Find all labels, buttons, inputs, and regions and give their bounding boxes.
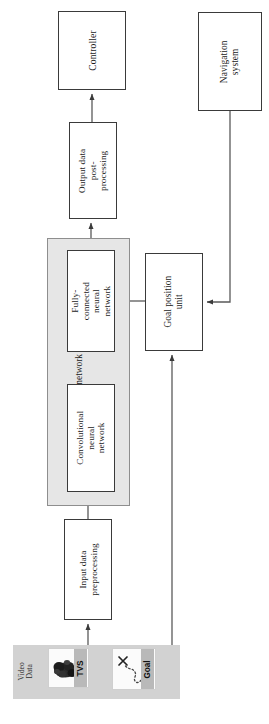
thumbnail-tvs-caption: TVS [76,660,85,676]
block-fully-connected-neural-network[interactable]: Fully-connected neural network [67,250,115,352]
thumbnail-goal-caption: Goal [143,660,152,678]
block-input-data-preprocessing-label: Input data preprocessing [77,543,98,595]
block-fully-connected-neural-network-label: Fully-connected neural network [70,278,112,324]
block-goal-position-unit[interactable]: Goal position unit [145,253,203,351]
thumbnail-goal[interactable]: Goal [112,648,156,690]
block-goal-position-unit-label: Goal position unit [163,274,184,330]
block-navigation-system-label: Navigation system [219,31,241,93]
video-data-label: Video Data [18,649,35,693]
block-controller-label: Controller [86,30,97,70]
block-convolutional-neural-network[interactable]: Convolutional neural network [67,384,115,492]
block-controller[interactable]: Controller [58,11,126,90]
block-convolutional-neural-network-label: Convolutional neural network [75,411,107,465]
block-output-data-post-processing[interactable]: Output data post- processing [69,122,117,219]
thumbnail-goal-caption-bar: Goal [141,649,154,689]
block-output-data-post-processing-label: Output data post- processing [77,147,109,193]
block-navigation-system[interactable]: Navigation system [198,12,262,111]
wire-navigation-to-goalunit [207,111,230,302]
diagram-canvas: Neural network algorithms Controller Nav… [0,0,269,724]
block-input-data-preprocessing[interactable]: Input data preprocessing [64,519,112,620]
thumbnail-tvs[interactable]: TVS [48,648,89,688]
thumbnail-tvs-caption-bar: TVS [74,649,87,687]
